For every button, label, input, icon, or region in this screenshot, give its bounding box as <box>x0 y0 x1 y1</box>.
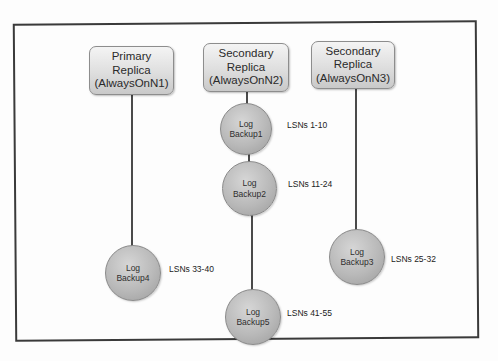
log-backup-1: Log Backup1 <box>220 103 272 155</box>
replica-type: Replica <box>227 61 265 75</box>
log-backup-number: Backup4 <box>116 273 149 284</box>
replica-secondary-alwayson-n3: Secondary Replica (AlwaysOnN3) <box>311 41 395 89</box>
log-backup-label: Log <box>246 307 260 318</box>
lsn-range-backup-2: LSNs 11-24 <box>288 179 332 189</box>
log-backup-label: Log <box>350 247 364 258</box>
log-backup-label: Log <box>242 178 256 189</box>
log-backup-5: Log Backup5 <box>225 289 281 345</box>
diagram-canvas: Primary Replica (AlwaysOnN1) Secondary R… <box>0 0 498 361</box>
replica-role: Secondary <box>326 45 381 59</box>
log-backup-number: Backup1 <box>229 129 262 140</box>
replica-type: Replica <box>112 64 150 78</box>
replica-role: Primary <box>112 50 152 64</box>
log-backup-label: Log <box>239 119 253 130</box>
lsn-range-backup-3: LSNs 25-32 <box>391 254 436 264</box>
log-backup-number: Backup5 <box>236 317 269 328</box>
replica-server: (AlwaysOnN1) <box>94 77 168 91</box>
log-backup-number: Backup3 <box>340 257 373 268</box>
log-backup-3: Log Backup3 <box>329 229 385 285</box>
replica-primary-alwayson-n1: Primary Replica (AlwaysOnN1) <box>89 46 174 95</box>
connector-n3-backup3 <box>355 89 357 231</box>
connector-backup2-backup5 <box>251 214 253 292</box>
replica-type: Replica <box>334 58 372 72</box>
replica-role: Secondary <box>219 47 274 61</box>
lsn-range-backup-5: LSNs 41-55 <box>287 308 332 318</box>
replica-server: (AlwaysOnN2) <box>209 74 283 88</box>
log-backup-number: Backup2 <box>233 189 266 200</box>
lsn-range-backup-1: LSNs 1-10 <box>287 120 327 130</box>
log-backup-label: Log <box>126 263 140 274</box>
lsn-range-backup-4: LSNs 33-40 <box>169 264 214 274</box>
log-backup-4: Log Backup4 <box>105 245 161 301</box>
replica-secondary-alwayson-n2: Secondary Replica (AlwaysOnN2) <box>203 43 289 92</box>
connector-n1-backup4 <box>131 95 133 247</box>
replica-server: (AlwaysOnN3) <box>316 72 390 86</box>
log-backup-2: Log Backup2 <box>222 161 277 216</box>
